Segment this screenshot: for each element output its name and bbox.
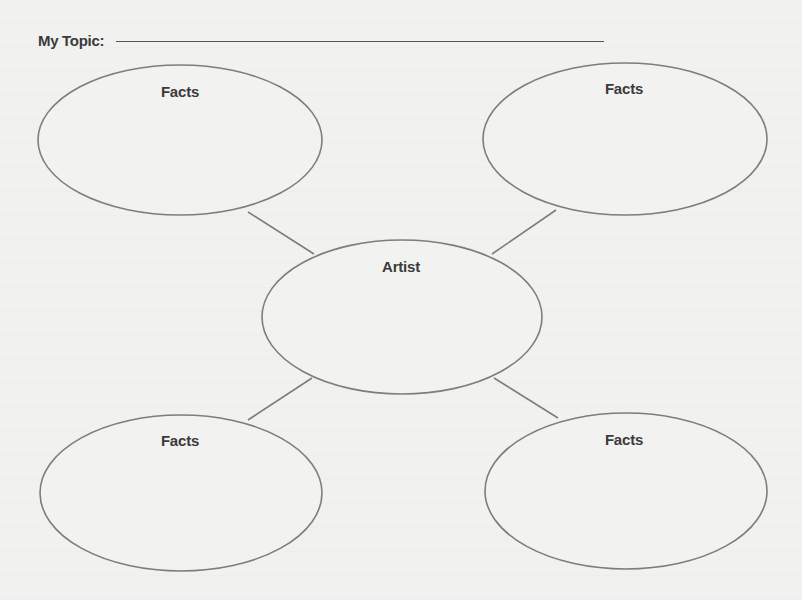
worksheet-page: My Topic: Facts Facts Artist Facts Facts: [0, 0, 802, 600]
connector-bottom-right: [494, 378, 558, 418]
facts-label-top-left: Facts: [161, 83, 199, 100]
idea-web-diagram: [0, 0, 802, 600]
facts-label-top-right: Facts: [605, 80, 643, 97]
facts-label-bottom-right: Facts: [605, 431, 643, 448]
connector-top-right: [492, 210, 556, 254]
artist-label-center: Artist: [382, 258, 420, 275]
connector-bottom-left: [248, 378, 312, 420]
facts-label-bottom-left: Facts: [161, 432, 199, 449]
connector-top-left: [248, 212, 314, 254]
